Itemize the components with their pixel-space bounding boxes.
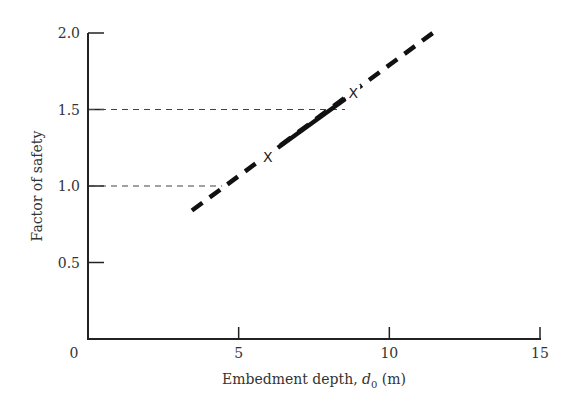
solid-curve	[278, 99, 346, 148]
y-tick-label: 0.5	[58, 255, 80, 271]
y-tick-label: 1.5	[58, 102, 80, 118]
reference-lines	[89, 110, 345, 187]
y-tick-label: 2.0	[58, 25, 80, 41]
x-tick-label: 10	[380, 345, 398, 361]
x-marker: X	[263, 149, 273, 165]
chart: XX 0.51.01.52.0051015 Factor of safety E…	[0, 0, 576, 408]
x-axis-title: Embedment depth, d0 (m)	[222, 371, 406, 390]
x-tick-label: 5	[234, 345, 243, 361]
x-tick-label: 15	[531, 345, 549, 361]
tick-labels: 0.51.01.52.0051015	[58, 25, 549, 361]
y-tick-label: 1.0	[58, 178, 80, 194]
x-marker: X	[348, 85, 358, 101]
data-series	[192, 30, 437, 211]
x-tick-label: 0	[70, 345, 79, 361]
y-axis-title: Factor of safety	[29, 131, 45, 242]
